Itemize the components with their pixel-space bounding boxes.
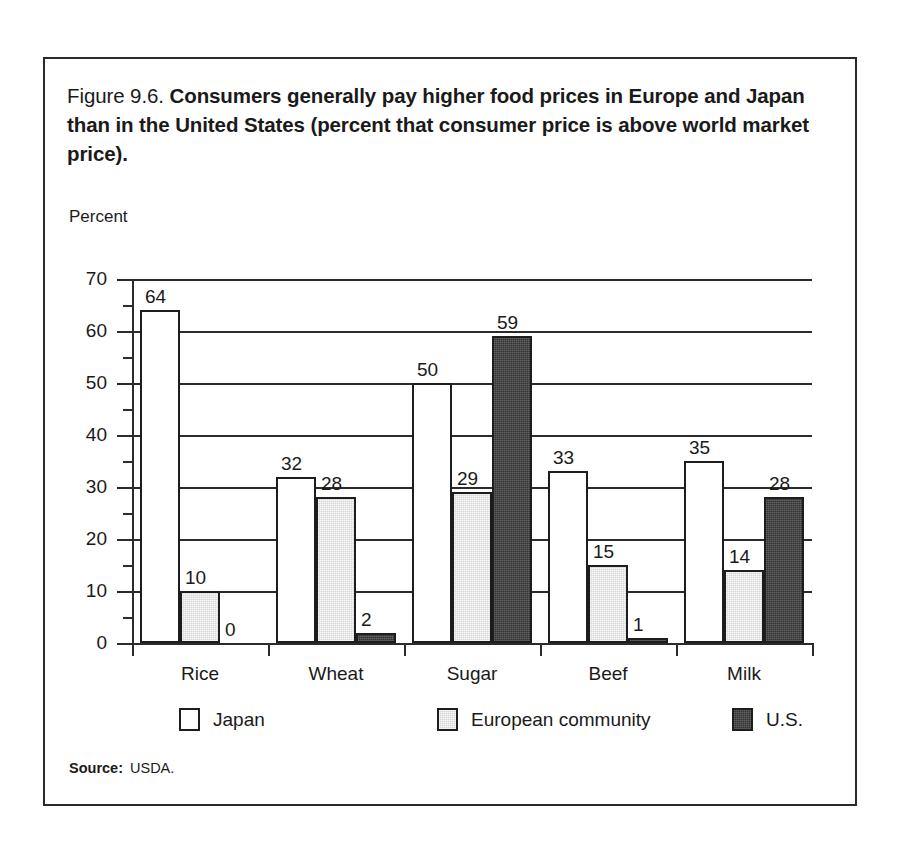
bar-wheat-ec [316, 497, 356, 643]
legend-label-us: U.S. [766, 710, 803, 729]
bar-value-milk-ec: 14 [729, 547, 750, 566]
bar-sugar-us [492, 336, 532, 643]
bar-beef-ec [588, 565, 628, 643]
y-tick-label-60: 60 [61, 321, 107, 340]
source-label: Source: [69, 760, 123, 776]
bar-value-sugar-ec: 29 [457, 469, 478, 488]
y-tick-label-30: 30 [61, 477, 107, 496]
legend-swatch-japan-icon [179, 708, 200, 731]
bar-value-milk-us: 28 [769, 474, 790, 493]
x-tick-1 [268, 643, 270, 656]
y-tick-label-0: 0 [61, 633, 107, 652]
bar-milk-japan [684, 461, 724, 643]
y-tick-major-20 [117, 539, 133, 541]
y-tick-major-10 [117, 591, 133, 593]
bar-value-sugar-us: 59 [497, 313, 518, 332]
bar-value-beef-ec: 15 [593, 542, 614, 561]
bar-value-wheat-us: 2 [361, 610, 372, 629]
x-tick-label-milk: Milk [674, 663, 814, 685]
bar-value-wheat-japan: 32 [281, 454, 302, 473]
gridline-60 [132, 331, 812, 333]
bar-sugar-japan [412, 383, 452, 643]
y-tick-major-60 [117, 331, 133, 333]
bar-rice-japan [140, 310, 180, 643]
bar-value-rice-us: 0 [225, 620, 236, 639]
x-tick-0 [132, 643, 134, 656]
legend-label-japan: Japan [213, 710, 265, 729]
y-tick-major-0 [117, 643, 133, 645]
x-tick-label-rice: Rice [130, 663, 270, 685]
bar-rice-ec [180, 591, 220, 643]
bar-value-rice-japan: 64 [145, 287, 166, 306]
bar-wheat-us [356, 633, 396, 643]
bar-milk-us [764, 497, 804, 643]
x-tick-label-beef: Beef [538, 663, 678, 685]
y-tick-label-20: 20 [61, 529, 107, 548]
bar-milk-ec [724, 570, 764, 643]
chart-legend: JapanEuropean communityU.S. [132, 704, 832, 738]
legend-swatch-us-icon [732, 708, 753, 731]
bar-value-milk-japan: 35 [689, 438, 710, 457]
x-tick-4 [676, 643, 678, 656]
y-axis-line [132, 279, 134, 645]
y-tick-major-40 [117, 435, 133, 437]
source-value: USDA. [130, 760, 174, 776]
bar-value-sugar-japan: 50 [417, 360, 438, 379]
source-note: Source:USDA. [69, 759, 174, 777]
x-tick-5 [812, 643, 814, 656]
y-tick-label-10: 10 [61, 581, 107, 600]
bar-value-rice-ec: 10 [185, 568, 206, 587]
bar-wheat-japan [276, 477, 316, 643]
x-tick-label-wheat: Wheat [266, 663, 406, 685]
y-tick-major-70 [117, 279, 133, 281]
bar-sugar-ec [452, 492, 492, 643]
figure-frame: Figure 9.6. Consumers generally pay high… [43, 57, 857, 806]
bar-beef-japan [548, 471, 588, 643]
legend-item-ec[interactable]: European community [437, 704, 651, 734]
y-tick-major-30 [117, 487, 133, 489]
y-tick-label-50: 50 [61, 373, 107, 392]
legend-label-ec: European community [471, 710, 651, 729]
x-tick-label-sugar: Sugar [402, 663, 542, 685]
legend-item-japan[interactable]: Japan [179, 704, 265, 734]
bar-value-beef-japan: 33 [553, 448, 574, 467]
bar-beef-us [628, 638, 668, 643]
x-tick-2 [404, 643, 406, 656]
bar-chart-plot: 010203040506070 641003228250295933151351… [45, 59, 859, 808]
x-axis-line [132, 643, 812, 645]
y-tick-label-40: 40 [61, 425, 107, 444]
bar-value-wheat-ec: 28 [321, 474, 342, 493]
x-tick-3 [540, 643, 542, 656]
legend-swatch-ec-icon [437, 708, 458, 731]
gridline-40 [132, 435, 812, 437]
bar-value-beef-us: 1 [633, 615, 644, 634]
legend-item-us[interactable]: U.S. [732, 704, 803, 734]
y-tick-label-70: 70 [61, 269, 107, 288]
gridline-70 [132, 279, 812, 281]
gridline-50 [132, 383, 812, 385]
y-tick-major-50 [117, 383, 133, 385]
